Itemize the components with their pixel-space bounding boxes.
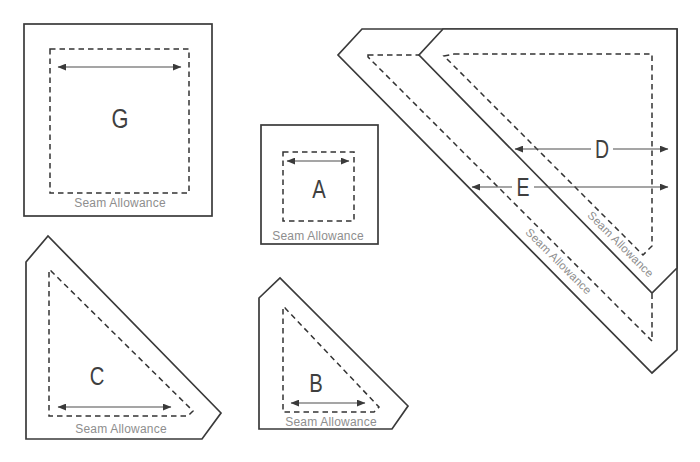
template-b-seam-allowance-label: Seam Allowance <box>285 415 377 429</box>
template-c-label: C <box>90 362 105 391</box>
template-a-label: A <box>312 175 326 204</box>
template-d-label: D <box>595 136 609 164</box>
template-g: G Seam Allowance <box>24 24 212 216</box>
template-c-cut-line <box>26 236 221 439</box>
quilt-template-diagram: Seam Allowance Seam Allowance G Seam All… <box>0 0 700 462</box>
template-a: A Seam Allowance <box>261 125 378 244</box>
template-b-label: B <box>309 369 323 398</box>
template-b-cut-line <box>259 278 408 429</box>
template-b: B Seam Allowance <box>259 278 408 429</box>
template-c: C Seam Allowance <box>26 236 221 439</box>
template-c-seam-allowance-label: Seam Allowance <box>75 422 167 436</box>
diagram-canvas: Seam Allowance Seam Allowance G Seam All… <box>0 0 700 462</box>
template-g-seam-allowance-label: Seam Allowance <box>74 196 166 210</box>
template-e-label: E <box>516 174 529 202</box>
template-a-seam-allowance-label: Seam Allowance <box>272 229 364 243</box>
template-g-label: G <box>112 102 129 133</box>
